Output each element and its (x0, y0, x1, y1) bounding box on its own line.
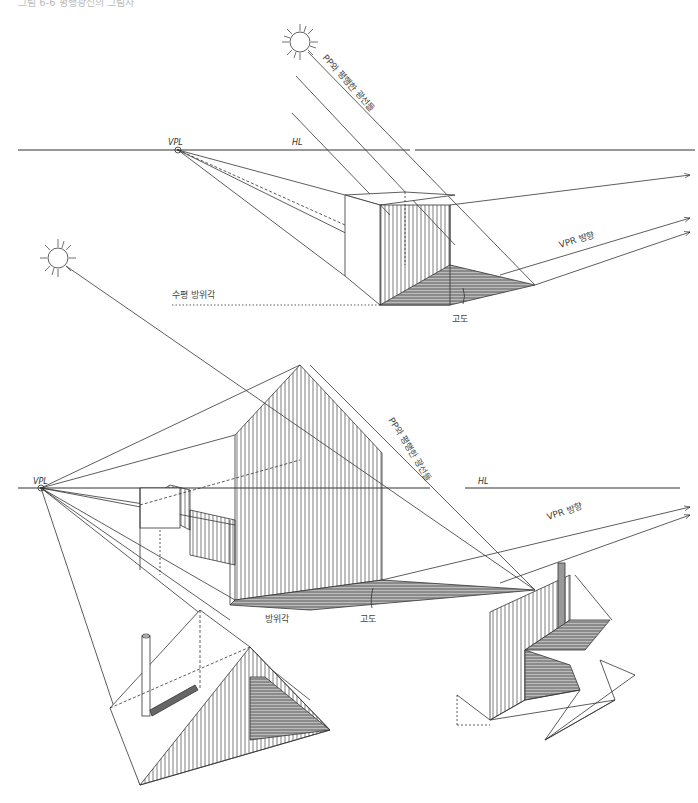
altitude-label-top: 고도 (452, 314, 468, 324)
sun-icon (282, 24, 318, 60)
hl-label-bottom: HL (478, 477, 488, 486)
vpr-direction-label-bottom: VPR 방향 (545, 500, 583, 522)
vpl-label-top: VPL (168, 138, 183, 147)
sun-rays-label-top: PP와 평행한 광선들 (321, 52, 378, 113)
horizontal-azimuth-label: 수평 방위각 (172, 289, 215, 300)
sun-icon (40, 239, 76, 277)
pole-wedge-example (110, 610, 330, 785)
hl-label-top: HL (292, 138, 302, 147)
pole (142, 636, 150, 716)
altitude-label-bottom: 고도 (360, 614, 376, 624)
vpl-label-bottom: VPL (33, 477, 48, 486)
perspective-shadow-diagram: VPL HL PP와 평행한 광선들 VPR 방향 수평 방위각 고도 (0, 0, 698, 803)
pole (558, 563, 565, 633)
vpr-direction-label-top: VPR 방향 (557, 229, 595, 250)
azimuth-label: 방위각 (265, 613, 289, 624)
